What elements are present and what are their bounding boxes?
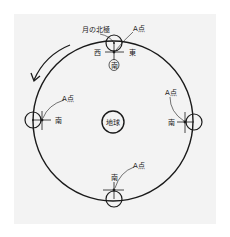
point-a-dot <box>41 119 44 122</box>
point-a-label: A点 <box>133 162 145 170</box>
point-a-dot <box>184 121 187 124</box>
point-a-dot <box>113 189 116 192</box>
north-pole-label: 月の北極 <box>82 25 110 34</box>
south-label: 南 <box>111 61 118 70</box>
earth-label: 地球 <box>106 118 120 127</box>
east-label: 東 <box>129 48 136 57</box>
south-label: 南 <box>55 116 62 125</box>
moon-orbit-diagram: 地球 月の北極 A点 西 東 南 A点 南 A <box>0 0 230 237</box>
south-label: 南 <box>111 173 118 182</box>
point-a-label: A点 <box>165 89 177 97</box>
point-a-label: A点 <box>133 25 145 33</box>
south-label: 南 <box>168 118 175 127</box>
west-label: 西 <box>94 49 101 57</box>
point-a-dot <box>113 51 116 54</box>
point-a-label: A点 <box>62 95 74 103</box>
